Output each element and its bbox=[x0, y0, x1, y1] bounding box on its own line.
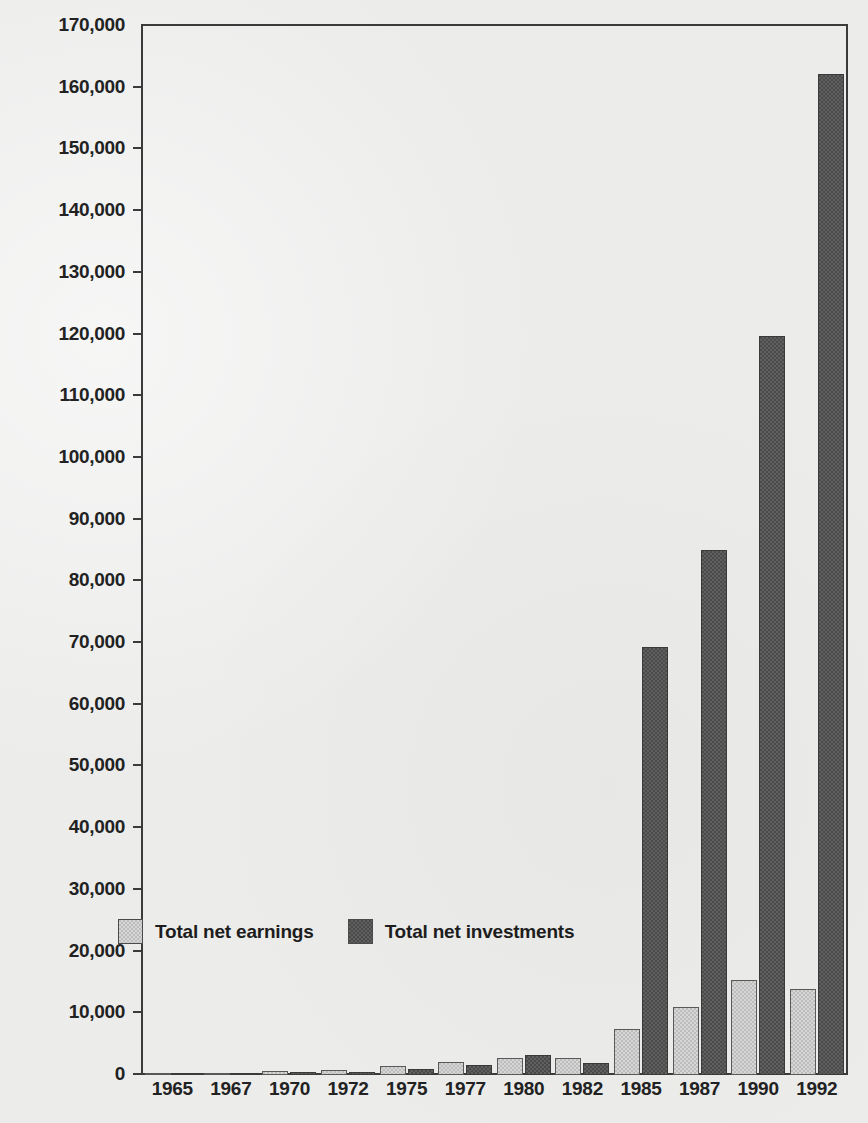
bar bbox=[673, 1007, 699, 1075]
y-tick-label: 0 bbox=[115, 1063, 125, 1085]
bar bbox=[232, 1073, 258, 1075]
bar bbox=[731, 980, 757, 1075]
bar bbox=[349, 1072, 375, 1075]
bar bbox=[555, 1058, 581, 1075]
x-tick-label: 1977 bbox=[436, 1078, 495, 1100]
bar-group bbox=[553, 26, 612, 1075]
y-tick-label: 60,000 bbox=[69, 693, 125, 715]
x-tick-label: 1992 bbox=[787, 1078, 846, 1100]
bar-chart: 170,000160,000150,000140,000130,000120,0… bbox=[0, 0, 868, 1123]
y-tick-label: 70,000 bbox=[69, 631, 125, 653]
x-tick-label: 1985 bbox=[612, 1078, 671, 1100]
bars-layer bbox=[143, 26, 846, 1075]
y-tick-label: 10,000 bbox=[69, 1001, 125, 1023]
y-tick-label: 120,000 bbox=[58, 323, 125, 345]
x-tick-label: 1982 bbox=[553, 1078, 612, 1100]
bar bbox=[145, 1073, 171, 1075]
bar-group bbox=[787, 26, 846, 1075]
bar-group bbox=[495, 26, 554, 1075]
y-tick-label: 130,000 bbox=[58, 261, 125, 283]
bar bbox=[790, 989, 816, 1075]
y-tick-label: 30,000 bbox=[69, 878, 125, 900]
x-tick-label: 1980 bbox=[495, 1078, 554, 1100]
y-tick-label: 80,000 bbox=[69, 569, 125, 591]
bar bbox=[759, 336, 785, 1075]
bar bbox=[818, 74, 844, 1075]
bar bbox=[290, 1072, 316, 1075]
bar-group bbox=[377, 26, 436, 1075]
x-tick-label: 1970 bbox=[260, 1078, 319, 1100]
bar-group bbox=[670, 26, 729, 1075]
y-tick-label: 50,000 bbox=[69, 754, 125, 776]
legend-label-total-net-investments: Total net investments bbox=[385, 921, 575, 943]
x-tick-label: 1972 bbox=[319, 1078, 378, 1100]
bar-group bbox=[436, 26, 495, 1075]
chart-legend: Total net earnings Total net investments bbox=[118, 919, 574, 944]
y-tick-label: 20,000 bbox=[69, 940, 125, 962]
y-tick-label: 40,000 bbox=[69, 816, 125, 838]
bar bbox=[438, 1062, 464, 1075]
legend-label-total-net-earnings: Total net earnings bbox=[155, 921, 314, 943]
bar bbox=[642, 647, 668, 1075]
bar-group bbox=[319, 26, 378, 1075]
bar bbox=[380, 1066, 406, 1075]
x-tick-label: 1967 bbox=[202, 1078, 261, 1100]
y-tick-label: 140,000 bbox=[58, 199, 125, 221]
bar-group bbox=[729, 26, 788, 1075]
x-tick-label: 1965 bbox=[143, 1078, 202, 1100]
x-tick-label: 1990 bbox=[729, 1078, 788, 1100]
legend-item-total-net-investments: Total net investments bbox=[348, 919, 575, 944]
bar bbox=[614, 1029, 640, 1075]
y-tick-label: 100,000 bbox=[58, 446, 125, 468]
x-tick-label: 1987 bbox=[670, 1078, 729, 1100]
bar-group bbox=[612, 26, 671, 1075]
bar bbox=[408, 1069, 434, 1075]
bar bbox=[173, 1073, 199, 1075]
bar bbox=[262, 1071, 288, 1075]
bar-group bbox=[202, 26, 261, 1075]
legend-item-total-net-earnings: Total net earnings bbox=[118, 919, 314, 944]
y-tick-label: 90,000 bbox=[69, 508, 125, 530]
bar bbox=[701, 550, 727, 1075]
dark-swatch-icon bbox=[348, 919, 373, 944]
y-tick-label: 150,000 bbox=[58, 137, 125, 159]
bar bbox=[321, 1070, 347, 1075]
bar bbox=[583, 1063, 609, 1075]
light-swatch-icon bbox=[118, 919, 143, 944]
y-tick-label: 160,000 bbox=[58, 76, 125, 98]
y-tick-label: 170,000 bbox=[58, 14, 125, 36]
bar bbox=[466, 1065, 492, 1075]
bar bbox=[204, 1073, 230, 1075]
x-tick-label: 1975 bbox=[377, 1078, 436, 1100]
x-axis: 1965196719701972197519771980198219851987… bbox=[141, 1078, 848, 1118]
bar-group bbox=[143, 26, 202, 1075]
y-tick-label: 110,000 bbox=[59, 384, 125, 406]
bar-group bbox=[260, 26, 319, 1075]
bar bbox=[525, 1055, 551, 1075]
bar bbox=[497, 1058, 523, 1075]
